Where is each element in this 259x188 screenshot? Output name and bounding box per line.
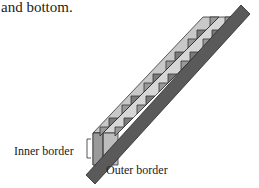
border-diagram [0,0,259,188]
outer-border-label: Outer border [106,163,168,178]
inner-border-bracket [87,139,91,158]
inner-border-label: Inner border [14,144,74,159]
